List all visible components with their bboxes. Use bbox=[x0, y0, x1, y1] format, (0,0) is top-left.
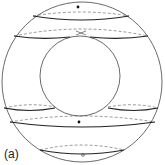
level-curve-front bbox=[14, 36, 70, 38]
outer-circle bbox=[2, 2, 162, 162]
level-curve-back bbox=[33, 12, 129, 16]
level-curve-front bbox=[90, 36, 148, 38]
saddle-cross-marker bbox=[76, 31, 86, 35]
level-curve-back bbox=[10, 116, 155, 122]
level-curve-front bbox=[4, 108, 55, 111]
inner-circle bbox=[40, 36, 120, 116]
level-curve-back bbox=[4, 105, 55, 108]
level-curve-back bbox=[108, 105, 158, 108]
level-curve-back bbox=[14, 29, 148, 36]
top-dot-marker bbox=[77, 6, 80, 9]
level-curve-front bbox=[33, 16, 129, 20]
torus-drawing bbox=[0, 0, 165, 165]
torus-diagram: (a) bbox=[0, 0, 165, 165]
panel-label: (a) bbox=[4, 147, 19, 161]
level-curve-front bbox=[40, 150, 124, 154]
lower-dot-marker bbox=[78, 121, 81, 124]
level-curve-front bbox=[10, 122, 155, 127]
level-curve-back bbox=[40, 145, 124, 150]
level-curve-front bbox=[108, 108, 158, 111]
